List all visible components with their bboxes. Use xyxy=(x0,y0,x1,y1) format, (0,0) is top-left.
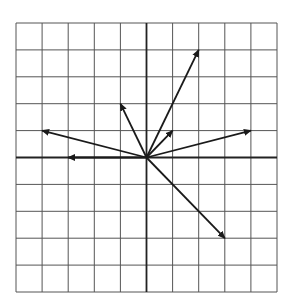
vector-arrow-v7 xyxy=(147,158,225,239)
vector-grid-diagram xyxy=(0,0,288,308)
